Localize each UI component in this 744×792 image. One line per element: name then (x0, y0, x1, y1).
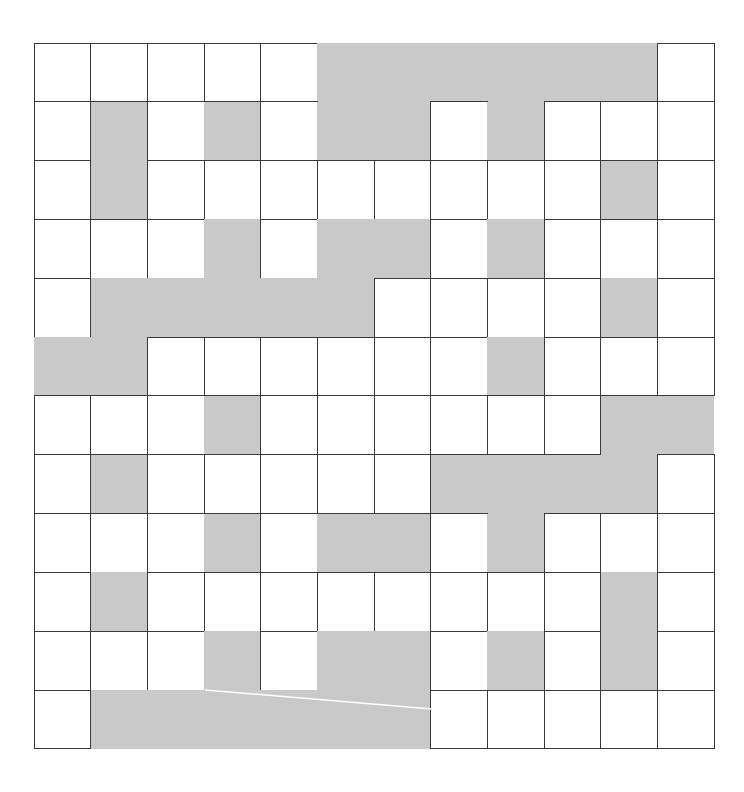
open-cell[interactable] (260, 395, 318, 455)
open-cell[interactable] (90, 219, 148, 279)
open-cell[interactable] (600, 101, 658, 161)
open-cell[interactable] (147, 160, 205, 220)
open-cell[interactable] (374, 395, 432, 455)
open-cell[interactable] (487, 572, 545, 632)
open-cell[interactable] (34, 219, 92, 279)
open-cell[interactable] (544, 337, 602, 397)
open-cell[interactable] (317, 160, 375, 220)
open-cell[interactable] (147, 513, 205, 573)
open-cell[interactable] (544, 395, 602, 455)
open-cell[interactable] (430, 337, 488, 397)
open-cell[interactable] (260, 43, 318, 103)
open-cell[interactable] (34, 631, 92, 691)
open-cell[interactable] (260, 160, 318, 220)
open-cell[interactable] (374, 454, 432, 514)
open-cell[interactable] (657, 219, 715, 279)
open-cell[interactable] (204, 160, 262, 220)
open-cell[interactable] (90, 43, 148, 103)
open-cell[interactable] (544, 690, 602, 750)
open-cell[interactable] (544, 219, 602, 279)
open-cell[interactable] (544, 278, 602, 338)
open-cell[interactable] (430, 395, 488, 455)
open-cell[interactable] (430, 278, 488, 338)
open-cell[interactable] (374, 278, 432, 338)
open-cell[interactable] (34, 690, 92, 750)
open-cell[interactable] (147, 631, 205, 691)
open-cell[interactable] (90, 513, 148, 573)
open-cell[interactable] (600, 219, 658, 279)
blocked-cell (204, 690, 261, 749)
open-cell[interactable] (430, 631, 488, 691)
open-cell[interactable] (430, 572, 488, 632)
open-cell[interactable] (600, 337, 658, 397)
open-cell[interactable] (544, 572, 602, 632)
open-cell[interactable] (260, 454, 318, 514)
blocked-cell (317, 278, 374, 337)
open-cell[interactable] (204, 337, 262, 397)
open-cell[interactable] (147, 219, 205, 279)
open-cell[interactable] (657, 43, 715, 103)
open-cell[interactable] (374, 160, 432, 220)
open-cell[interactable] (34, 43, 92, 103)
blocked-cell (317, 631, 374, 690)
open-cell[interactable] (487, 690, 545, 750)
open-cell[interactable] (34, 101, 92, 161)
open-cell[interactable] (260, 101, 318, 161)
open-cell[interactable] (147, 337, 205, 397)
open-cell[interactable] (317, 395, 375, 455)
open-cell[interactable] (34, 278, 92, 338)
open-cell[interactable] (657, 101, 715, 161)
blocked-cell (147, 278, 204, 337)
open-cell[interactable] (260, 337, 318, 397)
open-cell[interactable] (600, 513, 658, 573)
open-cell[interactable] (317, 572, 375, 632)
open-cell[interactable] (544, 101, 602, 161)
open-cell[interactable] (430, 160, 488, 220)
open-cell[interactable] (657, 690, 715, 750)
open-cell[interactable] (317, 454, 375, 514)
open-cell[interactable] (544, 160, 602, 220)
open-cell[interactable] (147, 572, 205, 632)
blocked-cell (91, 455, 148, 514)
open-cell[interactable] (487, 395, 545, 455)
open-cell[interactable] (204, 43, 262, 103)
open-cell[interactable] (430, 219, 488, 279)
open-cell[interactable] (430, 101, 488, 161)
open-cell[interactable] (657, 513, 715, 573)
open-cell[interactable] (147, 454, 205, 514)
open-cell[interactable] (600, 690, 658, 750)
open-cell[interactable] (544, 631, 602, 691)
open-cell[interactable] (317, 337, 375, 397)
open-cell[interactable] (34, 160, 92, 220)
open-cell[interactable] (657, 160, 715, 220)
open-cell[interactable] (657, 337, 715, 397)
open-cell[interactable] (487, 278, 545, 338)
open-cell[interactable] (544, 513, 602, 573)
open-cell[interactable] (260, 513, 318, 573)
open-cell[interactable] (204, 454, 262, 514)
open-cell[interactable] (90, 631, 148, 691)
open-cell[interactable] (430, 513, 488, 573)
open-cell[interactable] (34, 572, 92, 632)
open-cell[interactable] (147, 43, 205, 103)
open-cell[interactable] (34, 454, 92, 514)
open-cell[interactable] (430, 690, 488, 750)
open-cell[interactable] (90, 395, 148, 455)
blocked-cell (317, 219, 374, 278)
open-cell[interactable] (34, 513, 92, 573)
open-cell[interactable] (657, 572, 715, 632)
open-cell[interactable] (260, 219, 318, 279)
open-cell[interactable] (657, 278, 715, 338)
open-cell[interactable] (204, 572, 262, 632)
open-cell[interactable] (657, 454, 715, 514)
open-cell[interactable] (147, 101, 205, 161)
open-cell[interactable] (374, 572, 432, 632)
open-cell[interactable] (487, 160, 545, 220)
blocked-cell (317, 690, 374, 749)
open-cell[interactable] (374, 337, 432, 397)
open-cell[interactable] (34, 395, 92, 455)
open-cell[interactable] (260, 572, 318, 632)
open-cell[interactable] (260, 631, 318, 691)
open-cell[interactable] (147, 395, 205, 455)
open-cell[interactable] (657, 631, 715, 691)
